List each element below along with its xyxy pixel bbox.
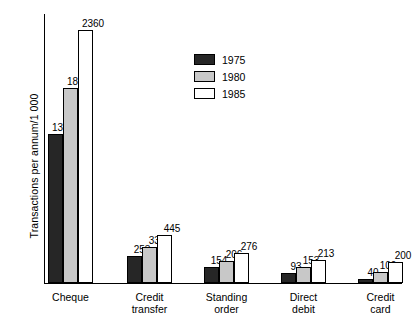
bar-value-label: 2360 xyxy=(76,18,110,29)
bar-group: 40100200 xyxy=(358,14,403,283)
bar xyxy=(63,88,78,283)
bar xyxy=(157,235,172,283)
bar xyxy=(373,272,388,283)
legend-item: 1980 xyxy=(194,69,245,84)
x-axis-category-label: Credit card xyxy=(336,291,416,315)
bar xyxy=(358,279,373,283)
legend-label-1985: 1985 xyxy=(222,88,245,100)
bar-value-label: 200 xyxy=(386,250,416,261)
bar-value-label: 276 xyxy=(232,241,266,252)
y-axis-title: Transactions per annum/1 000 xyxy=(28,56,40,276)
legend-swatch-1985 xyxy=(194,88,215,99)
bar xyxy=(311,260,326,283)
legend-swatch-1980 xyxy=(194,71,215,82)
bar xyxy=(219,261,234,283)
legend-item: 1975 xyxy=(194,52,245,67)
legend-swatch-1975 xyxy=(194,54,215,65)
bar xyxy=(204,267,219,284)
bar-group: 253334445 xyxy=(127,14,172,283)
bar xyxy=(296,267,311,283)
bar xyxy=(388,262,403,283)
bar-group: 138618202360 xyxy=(48,14,93,283)
x-axis-line xyxy=(44,283,402,284)
bar xyxy=(142,247,157,283)
bar xyxy=(127,256,142,283)
legend-label-1975: 1975 xyxy=(222,54,245,66)
bar xyxy=(78,30,93,283)
bar-value-label: 445 xyxy=(155,223,189,234)
bar xyxy=(234,253,249,283)
legend-item: 1985 xyxy=(194,86,245,101)
legend-label-1980: 1980 xyxy=(222,71,245,83)
bar xyxy=(48,134,63,283)
legend: 1975 1980 1985 xyxy=(194,52,245,103)
x-axis-category-label: Cheque xyxy=(26,291,116,303)
bar-group: 93153213 xyxy=(281,14,326,283)
bar-value-label: 213 xyxy=(309,248,343,259)
bar xyxy=(281,273,296,283)
